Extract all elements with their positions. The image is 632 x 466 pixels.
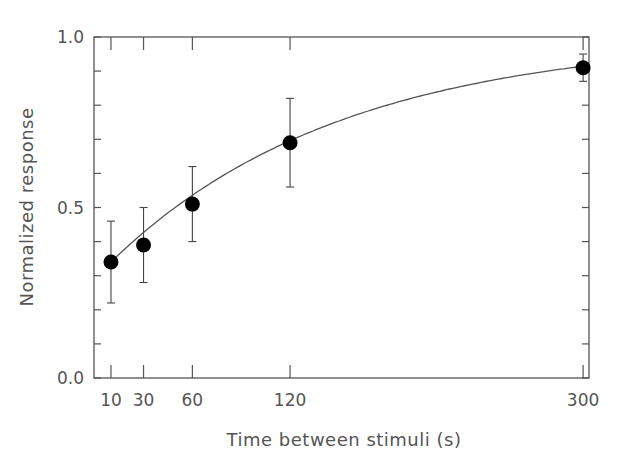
data-point [576,60,591,75]
data-point [103,255,118,270]
data-markers [103,60,590,269]
plot-frame [94,37,589,378]
y-axis-title: Normalized response [16,107,37,306]
y-axis-ticks [94,37,589,378]
y-tick-label: 1.0 [57,27,84,47]
fit-curve [111,66,583,262]
x-axis-title: Time between stimuli (s) [226,429,462,450]
data-point [185,197,200,212]
x-tick-label: 30 [133,390,155,410]
x-tick-label: 60 [182,390,204,410]
y-tick-label: 0.0 [57,368,84,388]
x-axis-tick-labels: 103060120300 [100,390,599,410]
error-bars [107,54,587,303]
data-point [283,135,298,150]
y-tick-label: 0.5 [57,198,84,218]
y-axis-tick-labels: 0.00.51.0 [57,27,84,388]
chart: 103060120300 0.00.51.0 Time between stim… [0,0,632,466]
x-tick-label: 120 [274,390,306,410]
x-tick-label: 300 [567,390,599,410]
x-axis-ticks [111,37,583,378]
data-point [136,238,151,253]
x-tick-label: 10 [100,390,122,410]
